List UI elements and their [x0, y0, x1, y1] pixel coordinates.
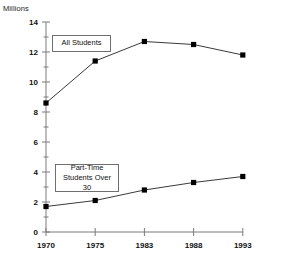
- series-callout-all-students: All Students: [52, 35, 111, 52]
- series-marker: [191, 42, 196, 47]
- series-marker: [240, 174, 245, 179]
- y-axis-tick-label: 0: [16, 228, 38, 237]
- series-marker: [142, 187, 147, 192]
- x-axis-tick-label: 1983: [124, 241, 164, 250]
- chart-plot-area: [0, 0, 286, 254]
- x-axis-tick-label: 1975: [75, 241, 115, 250]
- series-marker: [240, 52, 245, 57]
- series-callout-part-time: Part-Time Students Over 30: [55, 164, 119, 192]
- series-marker: [43, 100, 48, 105]
- x-axis-tick-label: 1988: [174, 241, 214, 250]
- x-axis-tick-label: 1993: [223, 241, 263, 250]
- y-axis-tick-label: 14: [16, 18, 38, 27]
- x-axis-tick-label: 1970: [26, 241, 66, 250]
- y-axis-tick-label: 10: [16, 78, 38, 87]
- series-marker: [142, 39, 147, 44]
- series-marker: [43, 204, 48, 209]
- y-axis-tick-label: 4: [16, 168, 38, 177]
- y-axis-tick-label: 8: [16, 108, 38, 117]
- y-axis-tick-label: 12: [16, 48, 38, 57]
- chart-container: Millions 02468101214 1970197519831988199…: [0, 0, 286, 254]
- series-marker: [93, 58, 98, 63]
- y-axis-tick-label: 6: [16, 138, 38, 147]
- series-marker: [93, 198, 98, 203]
- y-axis-tick-label: 2: [16, 198, 38, 207]
- series-marker: [191, 180, 196, 185]
